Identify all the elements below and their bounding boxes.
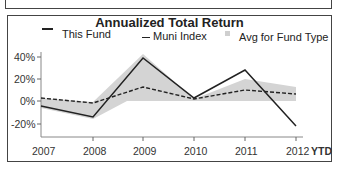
y-tick-0: 0% — [20, 95, 35, 107]
x-tick-2011: 2011 — [235, 145, 258, 157]
x-tick-2008: 2008 — [83, 145, 106, 157]
avg-band — [41, 54, 296, 119]
x-tick-2009: 2009 — [133, 145, 156, 157]
x-tick-2007: 2007 — [32, 145, 55, 157]
y-tick-20: 20% — [14, 73, 35, 85]
y-tick-40: 40% — [14, 51, 35, 63]
x-tick-2012: 2012 — [286, 145, 309, 157]
x-tick-2010: 2010 — [184, 145, 207, 157]
y-tick-neg20: -20% — [11, 118, 36, 130]
ytd-label: YTD — [311, 145, 332, 157]
